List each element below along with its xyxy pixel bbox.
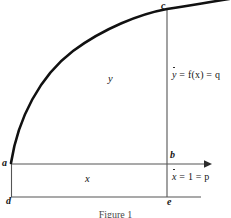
point-label-d: d (6, 196, 11, 206)
diagram-canvas (0, 0, 231, 218)
xdot-variable: x (172, 172, 177, 182)
axis-arrowhead (204, 160, 212, 168)
ydot-expression: = f(x) = q (177, 69, 220, 80)
figure-caption: Figure 1 (0, 209, 231, 218)
equation-ydot: y = f(x) = q (172, 70, 220, 80)
point-label-e: e (167, 197, 171, 207)
ydot-variable: y (172, 70, 177, 80)
figure-diagram: a b c d e y x y = f(x) = q x = 1 = p Fig… (0, 0, 231, 218)
point-label-a: a (2, 158, 7, 168)
equation-xdot: x = 1 = p (172, 172, 210, 182)
xdot-expression: = 1 = p (177, 171, 210, 182)
function-curve (11, 0, 229, 163)
point-label-b: b (170, 150, 175, 160)
point-label-c: c (161, 1, 165, 11)
region-label-y: y (108, 74, 113, 85)
region-label-x: x (85, 174, 90, 185)
